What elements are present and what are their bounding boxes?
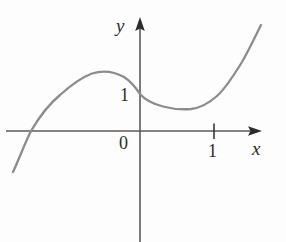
y-axis-label: y: [116, 16, 124, 35]
origin-label: 0: [119, 134, 128, 152]
cartesian-plot-svg: [0, 0, 286, 242]
y-tick-one-label: 1: [120, 86, 129, 104]
function-curve: [13, 25, 261, 172]
x-axis-label: x: [252, 139, 260, 158]
x-tick-one-label: 1: [208, 142, 217, 160]
graph-figure: y x 0 1 1: [0, 0, 286, 242]
